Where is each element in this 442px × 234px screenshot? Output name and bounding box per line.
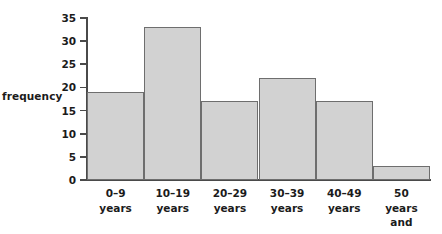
x-category-label: 0–9 years: [87, 186, 144, 215]
y-tick-label: 30: [0, 34, 76, 48]
bar: [201, 101, 258, 180]
y-tick-mark: [80, 87, 86, 89]
y-tick-label: 0: [0, 173, 76, 187]
y-tick-mark: [80, 156, 86, 158]
y-tick-mark: [80, 179, 86, 181]
bar: [144, 27, 201, 180]
y-tick-label: 5: [0, 150, 76, 164]
x-category-label: 10–19 years: [144, 186, 201, 215]
y-tick-label: 10: [0, 127, 76, 141]
y-tick-label: 25: [0, 57, 76, 71]
y-tick-label: 35: [0, 11, 76, 25]
y-tick-mark: [80, 110, 86, 112]
y-tick-mark: [80, 40, 86, 42]
y-tick-mark: [80, 133, 86, 135]
y-tick-mark: [80, 17, 86, 19]
bar: [316, 101, 373, 180]
x-category-label: 20–29 years: [201, 186, 258, 215]
x-category-label: 40–49 years: [316, 186, 373, 215]
bar: [87, 92, 144, 180]
y-tick-label: 15: [0, 104, 76, 118]
x-category-label: 30–39 years: [259, 186, 316, 215]
histogram-chart: frequency 05101520253035 0–9 years10–19 …: [0, 0, 442, 234]
bar: [259, 78, 316, 180]
y-tick-label: 20: [0, 80, 76, 94]
plot-area: [87, 18, 430, 180]
x-category-label: 50 years and over: [373, 186, 430, 234]
y-tick-mark: [80, 63, 86, 65]
bar: [373, 166, 430, 180]
